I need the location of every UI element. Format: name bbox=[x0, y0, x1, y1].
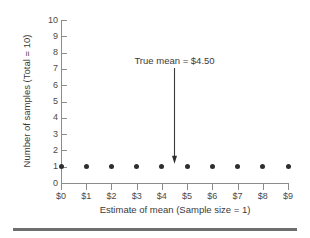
x-tick-label: $4 bbox=[149, 192, 175, 201]
data-point bbox=[159, 164, 164, 169]
x-axis-title: Estimate of mean (Sample size = 1) bbox=[61, 205, 289, 215]
y-tick-mark bbox=[61, 85, 67, 86]
y-tick-mark bbox=[61, 102, 67, 103]
y-tick-mark bbox=[61, 134, 67, 135]
y-tick-mark bbox=[61, 36, 67, 37]
true-mean-arrow-icon bbox=[172, 68, 177, 164]
x-axis-line bbox=[61, 183, 289, 184]
x-tick-label: $0 bbox=[48, 192, 74, 201]
y-tick-mark bbox=[61, 150, 67, 151]
y-tick-label: 3 bbox=[44, 130, 58, 139]
y-tick-label: 8 bbox=[44, 48, 58, 57]
dot-plot: 109876543210 $0$1$2$3$4$5$6$7$8$9 Number… bbox=[0, 0, 310, 238]
y-tick-label: 9 bbox=[44, 32, 58, 41]
y-tick-label: 1 bbox=[44, 162, 58, 171]
y-tick-label: 7 bbox=[44, 64, 58, 73]
data-point bbox=[210, 164, 215, 169]
x-tick-mark bbox=[238, 184, 239, 190]
y-tick-mark bbox=[61, 118, 67, 119]
data-point bbox=[235, 164, 240, 169]
y-tick-mark bbox=[61, 20, 67, 21]
y-tick-label: 10 bbox=[44, 16, 58, 25]
x-tick-mark bbox=[162, 184, 163, 190]
x-tick-mark bbox=[187, 184, 188, 190]
x-tick-label: $7 bbox=[225, 192, 251, 201]
figure-container: 109876543210 $0$1$2$3$4$5$6$7$8$9 Number… bbox=[0, 0, 310, 238]
y-tick-label: 0 bbox=[44, 179, 58, 188]
y-tick-label: 4 bbox=[44, 113, 58, 122]
y-tick-label: 2 bbox=[44, 146, 58, 155]
x-tick-mark bbox=[61, 184, 62, 190]
y-tick-label: 5 bbox=[44, 97, 58, 106]
y-tick-mark bbox=[61, 69, 67, 70]
y-tick-label: 6 bbox=[44, 81, 58, 90]
x-tick-mark bbox=[111, 184, 112, 190]
x-tick-mark bbox=[263, 184, 264, 190]
x-tick-label: $3 bbox=[124, 192, 150, 201]
data-point bbox=[109, 164, 114, 169]
x-tick-label: $9 bbox=[275, 192, 301, 201]
data-point bbox=[84, 164, 89, 169]
x-tick-label: $6 bbox=[199, 192, 225, 201]
true-mean-annotation-label: True mean = $4.50 bbox=[134, 56, 214, 66]
x-tick-label: $2 bbox=[98, 192, 124, 201]
y-axis-title: Number of samples (Total = 10) bbox=[22, 16, 32, 186]
x-tick-mark bbox=[212, 184, 213, 190]
bottom-divider bbox=[13, 228, 297, 231]
data-point bbox=[260, 164, 265, 169]
x-tick-mark bbox=[288, 184, 289, 190]
y-tick-mark bbox=[61, 53, 67, 54]
data-point bbox=[134, 164, 139, 169]
x-tick-mark bbox=[137, 184, 138, 190]
x-tick-label: $5 bbox=[174, 192, 200, 201]
x-tick-label: $1 bbox=[73, 192, 99, 201]
data-point bbox=[185, 164, 190, 169]
data-point bbox=[59, 164, 64, 169]
x-tick-mark bbox=[86, 184, 87, 190]
x-tick-label: $8 bbox=[250, 192, 276, 201]
data-point bbox=[286, 164, 291, 169]
